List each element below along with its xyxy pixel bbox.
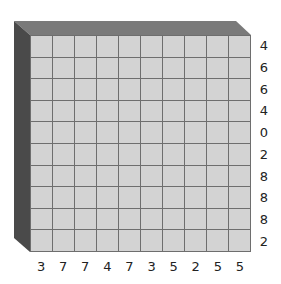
grid-cell[interactable] [53,230,74,251]
grid-cell[interactable] [75,58,96,79]
grid-cell[interactable] [229,58,250,79]
grid-cell[interactable] [185,209,206,230]
grid-cell[interactable] [53,209,74,230]
grid-cell[interactable] [207,101,228,122]
grid-cell[interactable] [119,209,140,230]
grid-cell[interactable] [75,79,96,100]
grid-cell[interactable] [207,230,228,251]
grid-cell[interactable] [31,36,52,57]
grid-cell[interactable] [229,122,250,143]
grid-cell[interactable] [163,230,184,251]
grid-cell[interactable] [163,144,184,165]
grid-cell[interactable] [97,36,118,57]
grid-cell[interactable] [119,166,140,187]
grid-cell[interactable] [119,58,140,79]
grid-cell[interactable] [53,166,74,187]
grid-cell[interactable] [119,144,140,165]
grid-cell[interactable] [141,36,162,57]
grid-cell[interactable] [163,58,184,79]
grid-cell[interactable] [141,79,162,100]
grid-cell[interactable] [185,166,206,187]
grid-cell[interactable] [207,144,228,165]
grid-cell[interactable] [53,101,74,122]
grid-cell[interactable] [163,79,184,100]
grid-cell[interactable] [207,36,228,57]
grid-cell[interactable] [31,144,52,165]
grid-cell[interactable] [185,230,206,251]
grid-cell[interactable] [229,79,250,100]
grid-cell[interactable] [185,122,206,143]
grid-cell[interactable] [163,209,184,230]
grid-cell[interactable] [31,101,52,122]
grid-cell[interactable] [207,58,228,79]
grid-cell[interactable] [53,36,74,57]
grid-cell[interactable] [163,36,184,57]
grid-cell[interactable] [31,187,52,208]
grid-cell[interactable] [53,58,74,79]
grid-cell[interactable] [53,122,74,143]
grid-cell[interactable] [163,166,184,187]
grid-cell[interactable] [119,230,140,251]
grid-cell[interactable] [229,36,250,57]
grid-cell[interactable] [53,144,74,165]
grid-cell[interactable] [229,144,250,165]
grid-cell[interactable] [31,209,52,230]
grid-cell[interactable] [229,209,250,230]
grid-cell[interactable] [229,187,250,208]
grid-cell[interactable] [75,122,96,143]
grid-cell[interactable] [207,79,228,100]
grid-cell[interactable] [141,144,162,165]
grid-cell[interactable] [75,187,96,208]
grid-cell[interactable] [163,122,184,143]
grid-cell[interactable] [31,58,52,79]
grid-cell[interactable] [207,187,228,208]
grid-cell[interactable] [31,122,52,143]
grid-cell[interactable] [53,187,74,208]
grid-cell[interactable] [119,122,140,143]
grid-cell[interactable] [119,187,140,208]
grid-cell[interactable] [163,187,184,208]
grid-cell[interactable] [185,58,206,79]
grid-cell[interactable] [185,144,206,165]
grid-cell[interactable] [119,79,140,100]
grid-cell[interactable] [185,79,206,100]
grid-cell[interactable] [141,230,162,251]
grid-cell[interactable] [119,101,140,122]
grid-cell[interactable] [141,209,162,230]
grid-cell[interactable] [97,101,118,122]
grid-cell[interactable] [185,101,206,122]
grid-cell[interactable] [97,209,118,230]
grid-cell[interactable] [229,101,250,122]
grid-cell[interactable] [119,36,140,57]
grid-cell[interactable] [207,122,228,143]
grid-cell[interactable] [185,36,206,57]
grid-cell[interactable] [75,101,96,122]
puzzle-grid[interactable] [30,35,251,252]
grid-cell[interactable] [31,166,52,187]
grid-cell[interactable] [141,122,162,143]
grid-cell[interactable] [75,230,96,251]
grid-cell[interactable] [97,79,118,100]
grid-cell[interactable] [75,144,96,165]
grid-cell[interactable] [97,144,118,165]
grid-cell[interactable] [97,122,118,143]
grid-cell[interactable] [185,187,206,208]
grid-cell[interactable] [141,187,162,208]
grid-cell[interactable] [207,166,228,187]
grid-cell[interactable] [97,230,118,251]
grid-cell[interactable] [229,166,250,187]
grid-cell[interactable] [75,209,96,230]
grid-cell[interactable] [141,58,162,79]
grid-cell[interactable] [31,79,52,100]
grid-cell[interactable] [141,166,162,187]
grid-cell[interactable] [207,209,228,230]
grid-cell[interactable] [97,187,118,208]
grid-cell[interactable] [97,166,118,187]
grid-cell[interactable] [97,58,118,79]
grid-cell[interactable] [141,101,162,122]
grid-cell[interactable] [229,230,250,251]
grid-cell[interactable] [31,230,52,251]
grid-cell[interactable] [75,166,96,187]
grid-cell[interactable] [53,79,74,100]
grid-cell[interactable] [163,101,184,122]
